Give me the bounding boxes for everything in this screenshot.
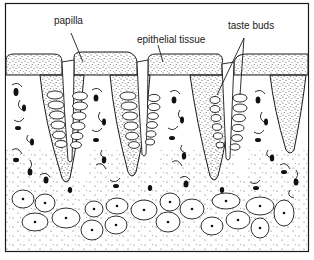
label-epithelial-tissue: epithelial tissue — [137, 35, 205, 45]
tongue-diagram: papilla epithelial tissue taste buds — [0, 0, 314, 260]
label-papilla: papilla — [54, 16, 83, 26]
label-taste-buds: taste buds — [228, 21, 274, 31]
